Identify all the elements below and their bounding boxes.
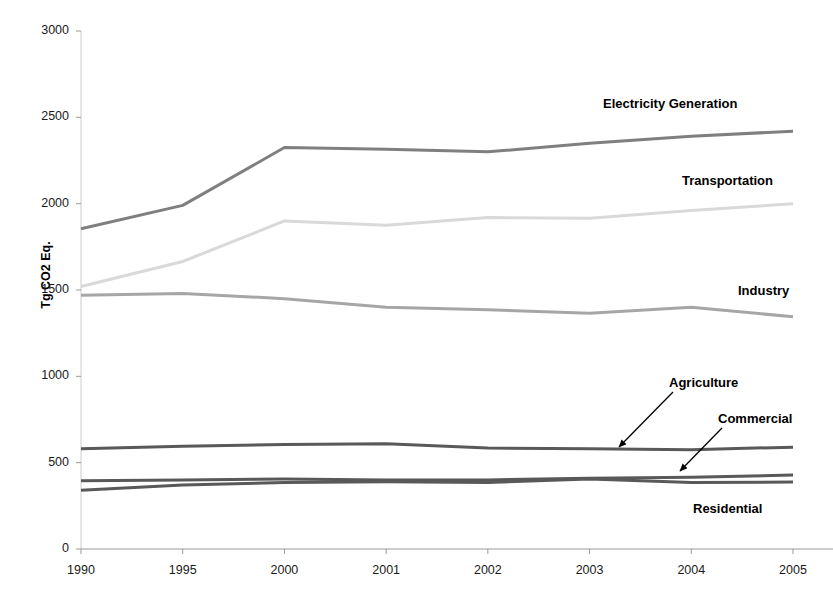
series-line-commercial [81,475,793,481]
annotation-arrow-agriculture [619,392,673,447]
annotation-arrows [619,392,722,471]
y-tick-label: 500 [9,455,69,469]
series-label-transportation: Transportation [682,173,773,188]
chart-container: Tg CO2 Eq. 300025002000150010005000 1990… [0,0,833,604]
series-line-transportation [81,204,793,287]
y-tick-label: 2500 [9,109,69,123]
series-label-agriculture: Agriculture [669,375,738,390]
series-label-industry: Industry [738,283,789,298]
series-line-agriculture [81,444,793,450]
x-tick-label: 1990 [51,563,111,577]
y-tick-label: 0 [9,541,69,555]
series-label-commercial: Commercial [718,411,792,426]
series-line-industry [81,293,793,316]
y-axis-label: Tg CO2 Eq. [39,215,53,335]
y-tick-label: 3000 [9,23,69,37]
y-tick-label: 1500 [9,282,69,296]
x-tick-label: 1995 [153,563,213,577]
x-tick-label: 2001 [356,563,416,577]
x-tick-label: 2004 [661,563,721,577]
x-tick-label: 2005 [763,563,823,577]
x-tick-label: 2003 [560,563,620,577]
series-label-electricity-generation: Electricity Generation [603,96,737,111]
x-tick-label: 2000 [254,563,314,577]
y-tick-label: 2000 [9,196,69,210]
series-label-residential: Residential [693,501,762,516]
x-tick-label: 2002 [458,563,518,577]
y-tick-label: 1000 [9,368,69,382]
